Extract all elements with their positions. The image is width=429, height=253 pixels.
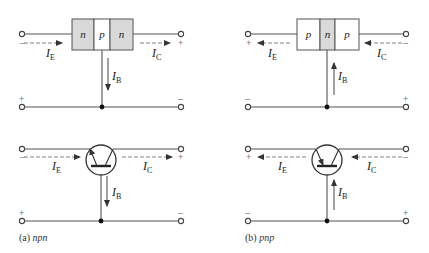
pnp-sym-ie-label: IE	[277, 159, 287, 175]
pnp-sym-top-left-sign: +	[246, 152, 251, 162]
npn-bottom-right-sign: –	[178, 94, 183, 104]
pnp-ic-label: IC	[376, 46, 386, 62]
npn-sym-junction-dot	[99, 219, 104, 224]
npn-ib-label: IB	[111, 69, 121, 85]
pnp-ib-label: IB	[337, 69, 347, 85]
npn-symbol-diagram: – + IE IC IB + – (a) npn	[19, 145, 184, 244]
npn-emitter-arrow-icon	[90, 149, 97, 166]
npn-sym-ib-label: IB	[111, 185, 121, 201]
npn-bottom-left-sign: +	[19, 94, 24, 104]
pnp-sym-ic-label: IC	[366, 159, 376, 175]
pnp-sym-collector-terminal	[403, 146, 408, 151]
npn-bottom-left-terminal	[19, 104, 24, 109]
pnp-sym-top-right-sign: –	[403, 152, 408, 162]
pnp-bottom-left-sign: –	[245, 94, 250, 104]
pnp-sym-bottom-left-sign: –	[245, 208, 250, 218]
pnp-collector-terminal	[403, 31, 408, 36]
npn-junction-dot	[100, 105, 105, 110]
npn-sym-collector-terminal	[178, 146, 183, 151]
pnp-emitter-terminal	[245, 31, 250, 36]
pnp-bottom-right-sign: +	[403, 94, 408, 104]
npn-bottom-right-terminal	[178, 104, 183, 109]
npn-ie-label: IE	[45, 46, 55, 62]
npn-layer-2: p	[98, 28, 105, 40]
pnp-bottom-left-terminal	[245, 104, 250, 109]
npn-top-left-sign: –	[20, 38, 25, 48]
npn-collector-terminal	[178, 31, 183, 36]
npn-sym-ie-label: IE	[51, 159, 61, 175]
pnp-junction-dot	[325, 105, 330, 110]
npn-ic-label: IC	[151, 46, 161, 62]
npn-sym-ic-label: IC	[142, 159, 152, 175]
npn-layer-1: n	[80, 28, 86, 40]
pnp-symbol-diagram: + – IE IC IB – + (b) pnp	[245, 145, 409, 244]
pnp-layer-3: p	[343, 28, 350, 40]
transistor-current-diagram: n p n – + IE IC IB + – p n p + – IE	[0, 0, 429, 253]
npn-sym-top-left-sign: –	[20, 152, 25, 162]
pnp-sym-bottom-right-sign: +	[403, 208, 408, 218]
npn-emitter-terminal	[19, 31, 24, 36]
pnp-sym-bottom-left-terminal	[245, 218, 250, 223]
pnp-bottom-right-terminal	[403, 104, 408, 109]
npn-sym-top-right-sign: +	[178, 152, 183, 162]
pnp-top-right-sign: –	[403, 38, 408, 48]
npn-transistor-icon	[86, 145, 116, 175]
pnp-sym-junction-dot	[325, 219, 330, 224]
pnp-layer-1: p	[305, 28, 312, 40]
pnp-top-left-sign: +	[246, 38, 251, 48]
pnp-sym-ib-label: IB	[337, 185, 347, 201]
npn-sym-bottom-right-sign: –	[178, 208, 183, 218]
pnp-sym-bottom-right-terminal	[403, 218, 408, 223]
npn-caption: (a) npn	[19, 232, 48, 244]
npn-top-right-sign: +	[178, 38, 183, 48]
npn-sym-bottom-left-sign: +	[19, 208, 24, 218]
pnp-emitter-arrow-icon	[316, 149, 323, 165]
pnp-sym-emitter-terminal	[245, 146, 250, 151]
npn-sym-bottom-left-terminal	[19, 218, 24, 223]
pnp-caption: (b) pnp	[245, 232, 274, 244]
pnp-transistor-icon	[312, 145, 342, 175]
npn-block-diagram: n p n – + IE IC IB + –	[19, 19, 184, 110]
npn-sym-bottom-right-terminal	[178, 218, 183, 223]
pnp-ie-label: IE	[267, 46, 277, 62]
pnp-block-diagram: p n p + – IE IC IB – +	[245, 19, 409, 110]
npn-layer-3: n	[119, 28, 125, 40]
pnp-layer-2: n	[325, 28, 331, 40]
npn-sym-emitter-terminal	[19, 146, 24, 151]
